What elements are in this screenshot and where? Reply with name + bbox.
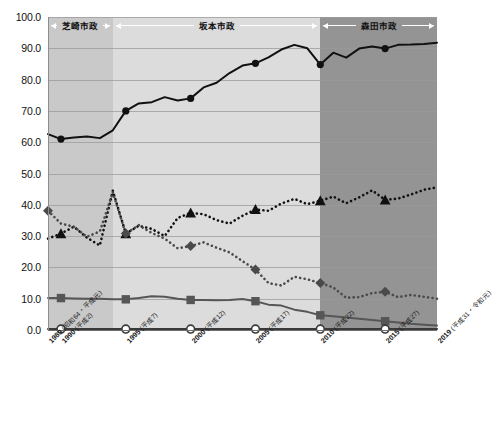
series-line — [48, 296, 437, 325]
data-point-marker — [316, 311, 324, 319]
y-tick-label: 60.0 — [21, 136, 41, 148]
y-tick-label: 100.0 — [16, 11, 41, 23]
era-label-text: 森田市政 — [356, 19, 402, 31]
y-tick-label: 20.0 — [21, 261, 41, 273]
x-axis-tick-labels: 1989 (昭和64・平成元)1990 (平成2)1995 (平成7)2000 … — [0, 332, 452, 422]
y-tick-label: 30.0 — [21, 230, 41, 242]
data-point-marker — [186, 241, 196, 251]
data-point-marker — [122, 107, 129, 114]
data-point-marker — [186, 296, 194, 304]
data-point-marker — [187, 95, 194, 102]
series-line — [48, 43, 437, 139]
data-point-marker — [380, 194, 391, 204]
era-label-text: 坂本市政 — [194, 19, 240, 31]
x-tick-label: 2019 (平成31・令和元) — [435, 287, 493, 345]
data-point-marker — [382, 45, 389, 52]
series-lines — [48, 17, 437, 330]
era-label-text: 芝崎市政 — [57, 19, 103, 31]
y-tick-label: 50.0 — [21, 168, 41, 180]
y-tick-label: 40.0 — [21, 199, 41, 211]
series-line — [48, 192, 437, 298]
era-label: 森田市政 — [323, 18, 434, 32]
y-tick-label: 80.0 — [21, 74, 41, 86]
y-axis-tick-labels: 100.090.080.070.060.050.040.030.020.010.… — [0, 17, 44, 330]
era-label: 芝崎市政 — [51, 18, 110, 32]
data-point-marker — [380, 287, 390, 297]
data-point-marker — [122, 295, 130, 303]
series-line — [48, 187, 437, 245]
y-tick-label: 70.0 — [21, 105, 41, 117]
data-point-marker — [381, 317, 389, 325]
y-tick-label: 10.0 — [21, 293, 41, 305]
data-point-marker — [56, 228, 67, 238]
x-axis-line — [48, 330, 437, 331]
data-point-marker — [315, 278, 325, 288]
data-point-marker — [57, 135, 64, 142]
y-tick-label: 90.0 — [21, 42, 41, 54]
y-axis-line — [48, 17, 49, 330]
data-point-marker — [251, 297, 259, 305]
plot-area — [48, 17, 437, 330]
data-point-marker — [57, 294, 65, 302]
data-point-marker — [317, 61, 324, 68]
data-point-marker — [252, 60, 259, 67]
data-point-marker — [315, 195, 326, 205]
data-point-marker — [185, 208, 196, 218]
era-label: 坂本市政 — [116, 18, 317, 32]
